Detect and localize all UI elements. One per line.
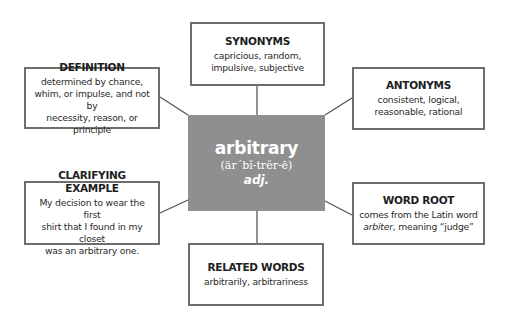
connector-antonyms <box>325 98 352 115</box>
clarifying-example-text: My decision to wear the first shirt that… <box>30 197 154 257</box>
word-root-box: WORD ROOT comes from the Latin word arbi… <box>352 182 485 245</box>
synonyms-title: SYNONYMS <box>225 35 290 48</box>
synonyms-line: capricious, random, <box>211 50 304 62</box>
connector-clarifying-example <box>160 200 188 213</box>
related-words-line: arbitrarily, arbitrariness <box>204 276 308 288</box>
definition-title: DEFINITION <box>59 61 124 74</box>
connector-word-root <box>325 201 352 215</box>
latin-root-word: arbiter <box>363 221 392 232</box>
word-root-line: arbiter, meaning “judge” <box>359 221 478 233</box>
clarifying-example-line: was an arbitrary one. <box>30 245 154 257</box>
antonyms-text: consistent, logical, reasonable, rationa… <box>375 94 463 118</box>
connector-definition <box>160 97 188 115</box>
pronunciation: (är´bĭ-trĕr-ē) <box>221 159 293 173</box>
definition-line: whim, or impulse, and not by <box>30 88 154 112</box>
clarifying-example-box: CLARIFYING EXAMPLE My decision to wear t… <box>24 181 160 245</box>
word-root-text: comes from the Latin word arbiter, meani… <box>359 209 478 233</box>
antonyms-line: reasonable, rational <box>375 106 463 118</box>
clarifying-example-line: shirt that I found in my closet <box>30 221 154 245</box>
clarifying-example-title: CLARIFYING EXAMPLE <box>30 169 154 195</box>
clarifying-example-line: My decision to wear the first <box>30 197 154 221</box>
related-words-title: RELATED WORDS <box>208 261 305 274</box>
synonyms-box: SYNONYMS capricious, random, impulsive, … <box>190 22 325 86</box>
center-word-box: arbitrary (är´bĭ-trĕr-ē) adj. <box>188 115 325 211</box>
center-word: arbitrary <box>215 139 299 158</box>
definition-line: necessity, reason, or principle <box>30 112 154 136</box>
antonyms-line: consistent, logical, <box>375 94 463 106</box>
related-words-text: arbitrarily, arbitrariness <box>204 276 308 288</box>
word-root-title: WORD ROOT <box>383 194 454 207</box>
part-of-speech: adj. <box>244 173 269 188</box>
synonyms-text: capricious, random, impulsive, subjectiv… <box>211 50 304 74</box>
related-words-box: RELATED WORDS arbitrarily, arbitrariness <box>188 243 324 306</box>
definition-box: DEFINITION determined by chance, whim, o… <box>24 67 160 129</box>
definition-text: determined by chance, whim, or impulse, … <box>30 76 154 136</box>
word-root-line: comes from the Latin word <box>359 209 478 221</box>
synonyms-line: impulsive, subjective <box>211 62 304 74</box>
definition-line: determined by chance, <box>30 76 154 88</box>
antonyms-title: ANTONYMS <box>386 79 451 92</box>
word-root-meaning: , meaning “judge” <box>393 221 474 232</box>
antonyms-box: ANTONYMS consistent, logical, reasonable… <box>352 67 485 130</box>
